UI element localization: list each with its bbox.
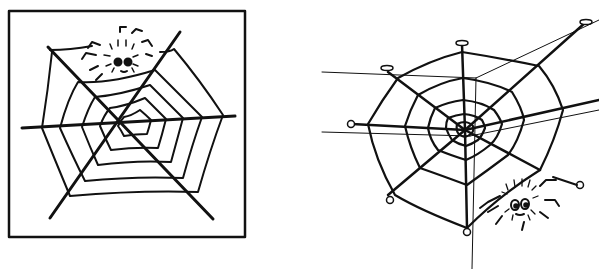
right-web-panel [322, 20, 599, 269]
frame-border [9, 11, 245, 237]
left-web-panel [9, 11, 245, 237]
spider-icon-left [82, 27, 152, 80]
spider-web-illustrations [0, 0, 599, 269]
